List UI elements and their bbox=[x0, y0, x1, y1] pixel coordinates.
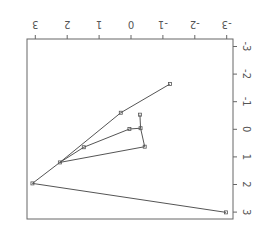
y-tick-label: -3 bbox=[241, 42, 252, 52]
data-markers bbox=[31, 83, 228, 214]
y-tick-label: -1 bbox=[241, 97, 252, 107]
x-tick-label: 3 bbox=[32, 19, 38, 30]
x-axis: 3210-1-2-3 bbox=[32, 19, 232, 39]
y-tick-label: -2 bbox=[241, 69, 252, 79]
y-tick-label: 1 bbox=[241, 154, 252, 160]
x-tick-label: -3 bbox=[222, 19, 232, 30]
series-line-path-a bbox=[32, 84, 226, 212]
series-lines bbox=[32, 84, 226, 212]
x-tick-label: 2 bbox=[64, 19, 70, 30]
line-chart: 3210-1-2-3 -3-2-10123 bbox=[0, 0, 270, 238]
y-tick-label: 3 bbox=[241, 209, 252, 215]
x-tick-label: 1 bbox=[96, 19, 102, 30]
x-tick-label: 0 bbox=[128, 19, 134, 30]
y-tick-label: 0 bbox=[241, 126, 252, 132]
x-tick-label: -2 bbox=[190, 19, 200, 30]
y-tick-label: 2 bbox=[241, 181, 252, 187]
series-line-path-c bbox=[60, 115, 145, 163]
series-line-path-b bbox=[60, 128, 141, 162]
y-axis: -3-2-10123 bbox=[233, 42, 252, 216]
x-tick-label: -1 bbox=[158, 19, 168, 30]
